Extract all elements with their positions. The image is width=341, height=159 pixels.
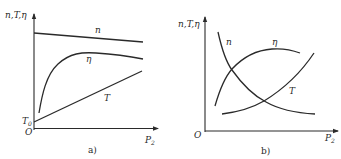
label-T-b: T [289, 86, 296, 96]
label-eta-b: η [272, 37, 278, 47]
caption-a: a) [88, 145, 97, 155]
y-axis-label-b: n,T,η [178, 19, 200, 29]
origin-label-a: O [25, 127, 33, 137]
label-n-b: n [226, 37, 232, 47]
label-T-a: T [104, 93, 111, 103]
label-n-a: n [95, 25, 101, 35]
diagram-a: n,T,η T0 O P2 n η T a) [5, 10, 158, 155]
y-axis-label-a: n,T,η [5, 10, 27, 20]
t0-label-a: T0 [22, 116, 32, 127]
curve-n-b [218, 32, 315, 114]
characteristic-curves-figure: n,T,η T0 O P2 n η T a) n,T,η O P2 n η T … [0, 0, 341, 159]
caption-b: b) [261, 146, 270, 156]
curve-T-a [34, 71, 142, 122]
curve-T-b [222, 53, 314, 114]
diagram-b: n,T,η O P2 n η T b) [178, 17, 338, 156]
origin-label-b: O [194, 130, 202, 140]
x-axis-label-a: P2 [144, 135, 155, 146]
curve-n-a [34, 33, 143, 42]
label-eta-a: η [86, 54, 92, 64]
x-axis-label-b: P2 [324, 133, 335, 144]
